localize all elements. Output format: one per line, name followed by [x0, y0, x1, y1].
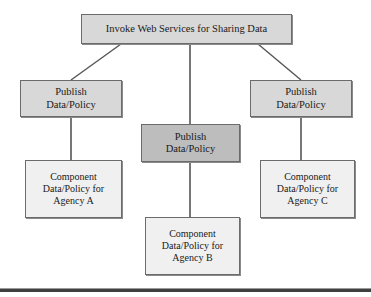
node-publish-right-label: Publish Data/Policy [251, 86, 351, 111]
diagram-canvas: Invoke Web Services for Sharing Data Pub… [0, 0, 371, 297]
node-publish-middle-label: Publish Data/Policy [142, 131, 239, 156]
connector-root-to-publish-right [258, 44, 301, 80]
node-component-agency-c: Component Data/Policy for Agency C [260, 160, 355, 218]
node-component-agency-b-label: Component Data/Policy for Agency B [146, 228, 239, 263]
node-component-agency-a-label: Component Data/Policy for Agency A [26, 171, 121, 206]
node-publish-left-label: Publish Data/Policy [21, 86, 121, 111]
connector-root-to-publish-left [71, 44, 121, 80]
node-publish-right: Publish Data/Policy [250, 80, 352, 117]
node-component-agency-c-label: Component Data/Policy for Agency C [261, 171, 354, 206]
node-invoke-web-services-label: Invoke Web Services for Sharing Data [82, 23, 291, 35]
node-publish-middle: Publish Data/Policy [141, 124, 240, 162]
node-component-agency-a: Component Data/Policy for Agency A [25, 160, 122, 218]
node-publish-left: Publish Data/Policy [20, 80, 122, 117]
node-component-agency-b: Component Data/Policy for Agency B [145, 217, 240, 275]
node-invoke-web-services: Invoke Web Services for Sharing Data [81, 14, 292, 44]
bottom-divider-rule [0, 288, 371, 292]
